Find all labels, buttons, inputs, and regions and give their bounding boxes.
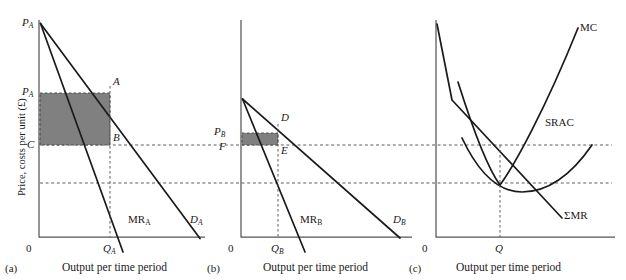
- panel-c-x-axis-title: Output per time period: [456, 262, 561, 274]
- panel-b-mr-label: MRB: [300, 214, 322, 227]
- panel-b-cost-level-label: F: [219, 141, 226, 152]
- panel-c-tag: (c): [409, 263, 421, 274]
- panel-c-axes: [436, 20, 615, 238]
- panel-a-tag: (a): [5, 263, 17, 274]
- panel-c-quantity-label: Q: [495, 243, 503, 254]
- panel-c-origin-label: 0: [422, 243, 428, 254]
- panel-b-x-axis-title: Output per time period: [263, 262, 368, 274]
- panel-b-point-e-label: E: [281, 145, 288, 156]
- panel-c-mc-label: MC: [580, 22, 597, 33]
- panel-b-origin-label: 0: [228, 243, 234, 254]
- panel-b-axes: [241, 20, 412, 238]
- shared-price-level-lines: [40, 145, 612, 183]
- panel-b-point-d-label: D: [281, 112, 289, 123]
- panel-c-srac-label: SRAC: [545, 117, 574, 128]
- panel-b-demand-label: DB: [393, 214, 406, 227]
- panel-c-srac-curve: [462, 138, 592, 192]
- figure-canvas: [0, 0, 626, 280]
- panel-b-quantity-label: QB: [271, 243, 284, 256]
- y-axis-title: Price, costs per unit (£): [16, 98, 27, 196]
- panel-b-tag: (b): [207, 263, 220, 274]
- price-discrimination-figure: Price, costs per unit (£) PA PA C A B QA…: [0, 0, 626, 280]
- panel-a-demand-label: DA: [190, 214, 203, 227]
- panel-a: [39, 20, 205, 252]
- panel-a-p-top-label: PA: [22, 17, 33, 30]
- panel-a-cost-level-label: C: [27, 139, 34, 150]
- panel-a-quantity-label: QA: [103, 243, 116, 256]
- panel-a-point-a-label: A: [113, 76, 120, 87]
- panel-b-marginal-revenue-curve: [243, 99, 306, 252]
- panel-a-origin-label: 0: [26, 243, 32, 254]
- panel-c: [436, 20, 615, 238]
- panel-a-x-axis-title: Output per time period: [62, 262, 167, 274]
- panel-a-price-level-label: PA: [22, 86, 33, 99]
- panel-b: [241, 20, 412, 252]
- panel-c-sum-mr-label: ΣMR: [564, 210, 588, 221]
- panel-b-price-level-label: PB: [214, 126, 225, 139]
- panel-a-point-b-label: B: [113, 132, 120, 143]
- panel-a-mr-label: MRA: [128, 214, 151, 227]
